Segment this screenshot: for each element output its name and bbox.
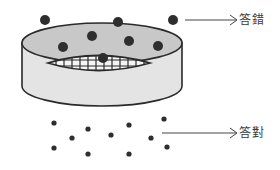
label-wrong: 答錯 (239, 13, 264, 27)
small-dot (85, 151, 90, 156)
small-dot (161, 116, 166, 121)
sieve-diagram (0, 0, 280, 170)
large-dot (124, 36, 134, 46)
large-dot (153, 41, 163, 51)
small-dot (126, 122, 131, 127)
large-dot (113, 17, 123, 27)
large-dot (87, 31, 97, 41)
small-dot (85, 126, 90, 131)
large-dot (168, 15, 178, 25)
small-dot (164, 144, 169, 149)
small-dot (108, 132, 113, 137)
arrow-wrong (185, 15, 237, 25)
label-right: 答對 (239, 126, 264, 140)
large-dot (98, 53, 108, 63)
small-dot (126, 151, 131, 156)
small-dots-right (51, 116, 169, 156)
small-dot (51, 145, 56, 150)
large-dot (58, 42, 68, 52)
small-dot (51, 120, 56, 125)
small-dot (69, 135, 74, 140)
large-dot (40, 15, 50, 25)
small-dot (148, 135, 153, 140)
arrow-right (162, 128, 237, 138)
